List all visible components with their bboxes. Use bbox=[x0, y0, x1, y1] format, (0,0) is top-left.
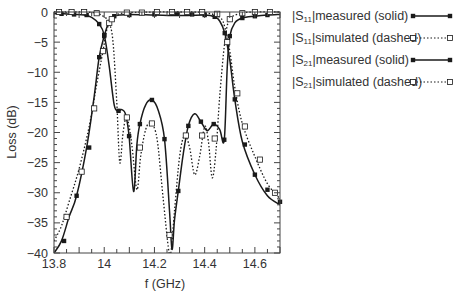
data-point-marker bbox=[92, 106, 97, 111]
data-point-marker bbox=[242, 124, 247, 129]
data-point-marker bbox=[124, 115, 129, 120]
x-axis-label: f (GHz) bbox=[145, 277, 185, 291]
data-point-marker bbox=[257, 157, 262, 162]
y-tick-label: −30 bbox=[27, 186, 48, 200]
y-tick-label: −25 bbox=[27, 156, 48, 170]
data-point-marker bbox=[127, 134, 131, 138]
y-tick-label: −10 bbox=[27, 66, 48, 80]
data-point-marker bbox=[109, 17, 114, 22]
data-point-marker bbox=[186, 124, 190, 128]
legend-label: |S11|simulated (dashed) bbox=[292, 31, 421, 45]
y-tick-label: −20 bbox=[27, 126, 48, 140]
plot-lines bbox=[54, 12, 280, 256]
data-point-marker bbox=[212, 136, 217, 141]
legend: |S11|measured (solid) |S11|simulated (da… bbox=[292, 9, 422, 97]
y-tick-label: 0 bbox=[41, 6, 48, 20]
data-point-marker bbox=[87, 145, 91, 149]
data-point-marker bbox=[223, 31, 227, 35]
x-tick-label: 14.6 bbox=[243, 257, 267, 271]
data-point-marker bbox=[62, 239, 66, 243]
data-point-marker bbox=[240, 16, 244, 20]
data-point-marker bbox=[225, 40, 230, 45]
data-point-marker bbox=[94, 11, 99, 16]
series-line-0 bbox=[54, 14, 280, 250]
legend-label: |S21|measured (solid) bbox=[292, 53, 409, 67]
data-point-marker bbox=[167, 232, 172, 237]
data-point-marker bbox=[64, 214, 69, 219]
x-tick-label: 14.2 bbox=[142, 257, 166, 271]
data-point-marker bbox=[162, 137, 166, 141]
data-point-marker bbox=[150, 98, 154, 102]
y-axis-label: Loss (dB) bbox=[5, 105, 19, 159]
data-point-marker bbox=[228, 34, 232, 38]
data-point-marker bbox=[265, 188, 269, 192]
data-point-marker bbox=[212, 122, 216, 126]
legend-item-s21-simulated: |S21|simulated (dashed) bbox=[292, 75, 422, 97]
y-tick-label: −15 bbox=[27, 96, 48, 110]
x-tick-label: 14 bbox=[97, 257, 111, 271]
y-tick-label: −5 bbox=[34, 36, 48, 50]
plot-frame bbox=[54, 12, 280, 253]
data-point-marker bbox=[97, 55, 101, 59]
data-point-marker bbox=[200, 133, 205, 138]
data-point-marker bbox=[199, 119, 203, 123]
y-tick-label: −40 bbox=[27, 247, 48, 261]
data-point-marker bbox=[176, 189, 180, 193]
data-point-marker bbox=[79, 169, 84, 174]
data-point-marker bbox=[97, 22, 101, 26]
legend-label: |S11|measured (solid) bbox=[292, 9, 408, 23]
x-tick-label: 14.4 bbox=[192, 257, 216, 271]
x-axis: 13.81414.214.414.6 bbox=[42, 12, 280, 271]
data-point-marker bbox=[222, 138, 226, 142]
legend-item-s21-measured: |S21|measured (solid) bbox=[292, 53, 422, 75]
legend-label: |S21|simulated (dashed) bbox=[292, 75, 422, 89]
data-point-marker bbox=[149, 121, 154, 126]
y-axis: 0−5−10−15−20−25−30−35−40 bbox=[27, 6, 280, 261]
data-point-marker bbox=[102, 34, 106, 38]
data-point-marker bbox=[100, 49, 105, 54]
data-point-marker bbox=[235, 91, 240, 96]
data-point-marker bbox=[183, 133, 188, 138]
data-point-marker bbox=[124, 10, 129, 15]
data-point-marker bbox=[116, 109, 120, 113]
y-tick-label: −35 bbox=[27, 216, 48, 230]
data-point-marker bbox=[74, 194, 78, 198]
legend-item-s11-measured: |S11|measured (solid) bbox=[292, 9, 422, 31]
data-point-marker bbox=[253, 172, 257, 176]
data-point-marker bbox=[243, 142, 247, 146]
data-point-marker bbox=[138, 122, 142, 126]
legend-item-s11-simulated: |S11|simulated (dashed) bbox=[292, 31, 422, 53]
data-point-marker bbox=[233, 97, 237, 101]
data-point-marker bbox=[137, 145, 142, 150]
